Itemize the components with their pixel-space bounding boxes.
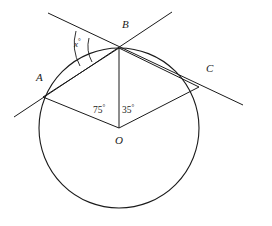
point-label-c: C bbox=[206, 63, 213, 74]
chord-bc bbox=[119, 48, 199, 87]
angle-label-aob: 75° bbox=[93, 104, 105, 116]
angle-label-x: x° bbox=[74, 38, 81, 49]
radius-oa bbox=[43, 97, 119, 128]
angle-value-boc: 35 bbox=[122, 105, 132, 115]
chord-ab bbox=[43, 48, 119, 97]
degree-symbol-x: ° bbox=[78, 37, 81, 45]
degree-symbol-boc: ° bbox=[132, 103, 135, 111]
point-label-o: O bbox=[115, 135, 123, 146]
angle-value-aob: 75 bbox=[93, 105, 103, 115]
geometry-figure: A B C O 75° 35° x° bbox=[0, 0, 272, 226]
point-label-a: A bbox=[36, 72, 43, 83]
point-label-b: B bbox=[122, 19, 129, 30]
geometry-canvas bbox=[0, 0, 272, 226]
angle-arc-x-inner bbox=[88, 38, 92, 62]
angle-label-boc: 35° bbox=[122, 104, 134, 116]
degree-symbol-aob: ° bbox=[103, 103, 106, 111]
